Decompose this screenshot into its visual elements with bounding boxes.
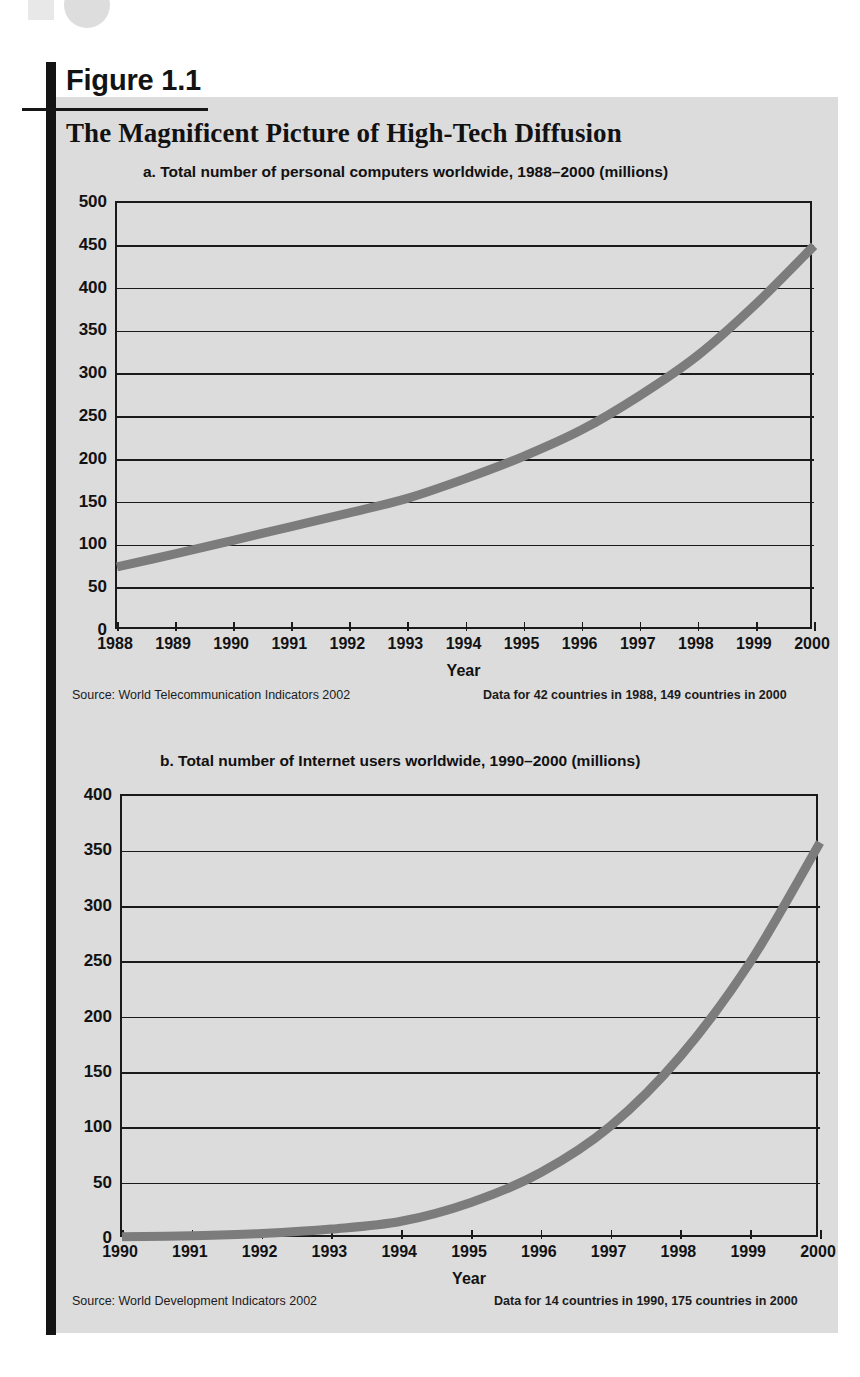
x-axis-tick-label: 1993: [301, 1244, 357, 1260]
x-axis-tick-label: 1997: [610, 636, 666, 652]
y-axis-tick-label: 350: [61, 321, 107, 338]
x-axis-tick-label: 1999: [720, 1244, 776, 1260]
chart-a-source: Source: World Telecommunication Indicato…: [72, 688, 350, 702]
y-axis-tick-label: 150: [66, 1063, 112, 1080]
x-axis-tick-label: 1998: [650, 1244, 706, 1260]
x-axis-tick-label: 1995: [441, 1244, 497, 1260]
x-axis-tick-label: 1988: [87, 636, 143, 652]
chart-b-source: Source: World Development Indicators 200…: [72, 1294, 317, 1308]
x-axis-tick-label: 1993: [377, 636, 433, 652]
y-axis-tick-label: 150: [61, 493, 107, 510]
x-axis-tick-label: 1996: [511, 1244, 567, 1260]
x-axis-tick-label: 1997: [581, 1244, 637, 1260]
y-axis-tick-label: 400: [61, 279, 107, 296]
x-axis-tick-label: 1995: [494, 636, 550, 652]
chart-b-data-note: Data for 14 countries in 1990, 175 count…: [494, 1294, 798, 1308]
chart-plot-area: [115, 201, 812, 629]
figure-left-rule: [46, 62, 56, 1335]
x-axis-tick-label: 1990: [203, 636, 259, 652]
x-axis-tick-label: 1990: [92, 1244, 148, 1260]
y-axis-tick-label: 50: [66, 1174, 112, 1191]
x-axis-tick-label: 1998: [668, 636, 724, 652]
y-axis-tick-label: 200: [61, 450, 107, 467]
x-axis-title: Year: [115, 662, 812, 680]
x-axis-tick-label: 2000: [784, 636, 840, 652]
figure-label: Figure 1.1: [66, 64, 201, 97]
y-axis-tick-label: 50: [61, 578, 107, 595]
figure-title: The Magnificent Picture of High-Tech Dif…: [66, 118, 622, 149]
x-axis-tick-label: 1991: [261, 636, 317, 652]
y-axis-tick-label: 250: [66, 952, 112, 969]
page-artifact-block: [28, 0, 54, 20]
x-axis-title: Year: [120, 1270, 818, 1288]
chart-plot-area: [120, 794, 818, 1237]
x-axis-tick-label: 1994: [371, 1244, 427, 1260]
figure-header-rule: [22, 108, 208, 111]
chart-a-title: a. Total number of personal computers wo…: [143, 163, 668, 181]
y-axis-tick-label: 450: [61, 236, 107, 253]
page-number-artifact: [0, 0, 120, 40]
x-axis-tick-label: 1992: [232, 1244, 288, 1260]
y-axis-tick-label: 500: [61, 193, 107, 210]
chart-b-title: b. Total number of Internet users worldw…: [160, 752, 640, 770]
y-axis-tick-label: 200: [66, 1008, 112, 1025]
y-axis-tick-label: 300: [61, 364, 107, 381]
chart-series-line: [117, 246, 814, 567]
x-axis-tick-label: 2000: [790, 1244, 846, 1260]
y-axis-tick-label: 250: [61, 407, 107, 424]
x-axis-tick-label: 1999: [726, 636, 782, 652]
chart-series-svg: [117, 203, 814, 631]
chart-a-data-note: Data for 42 countries in 1988, 149 count…: [483, 688, 787, 702]
y-axis-tick-label: 350: [66, 841, 112, 858]
x-axis-tick-label: 1992: [319, 636, 375, 652]
x-axis-tick-label: 1991: [162, 1244, 218, 1260]
y-axis-tick-label: 100: [66, 1118, 112, 1135]
page-artifact-circle: [64, 0, 110, 28]
x-axis-tick-mark: [820, 1230, 822, 1239]
x-axis-tick-label: 1994: [436, 636, 492, 652]
x-axis-tick-mark: [814, 622, 816, 631]
y-axis-tick-label: 100: [61, 535, 107, 552]
x-axis-tick-label: 1989: [145, 636, 201, 652]
x-axis-tick-label: 1996: [552, 636, 608, 652]
chart-series-line: [122, 843, 820, 1237]
y-axis-tick-label: 300: [66, 897, 112, 914]
chart-series-svg: [122, 796, 820, 1239]
y-axis-tick-label: 400: [66, 786, 112, 803]
